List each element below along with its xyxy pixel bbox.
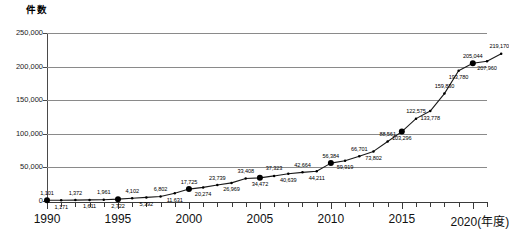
data-point-label: 1,101 <box>40 190 54 196</box>
data-point-label: 207,960 <box>477 65 497 71</box>
data-point-label: 44,211 <box>309 175 325 181</box>
milestone-marker <box>44 197 50 203</box>
data-marker <box>74 199 77 202</box>
data-point-label: 1,372 <box>69 190 83 196</box>
data-point-label: 6,802 <box>154 186 168 192</box>
milestone-marker <box>399 129 405 135</box>
data-point-label: 103,296 <box>392 135 412 141</box>
data-marker <box>372 150 375 153</box>
data-marker <box>287 172 290 175</box>
series-line <box>47 54 501 201</box>
data-marker <box>358 155 361 158</box>
data-point-label: 5,392 <box>140 201 154 207</box>
data-marker <box>457 70 460 73</box>
data-marker <box>429 110 432 113</box>
milestone-marker <box>470 60 476 66</box>
data-point-label: 193,780 <box>449 74 469 80</box>
data-point-label: 17,725 <box>181 179 198 185</box>
data-point-label: 37,323 <box>266 165 283 171</box>
milestone-marker <box>257 175 263 181</box>
data-marker <box>344 159 347 162</box>
data-point-label: 159,830 <box>435 83 455 89</box>
data-marker <box>159 195 162 198</box>
data-marker <box>216 184 219 187</box>
data-marker <box>103 198 106 201</box>
data-point-label: 42,664 <box>294 162 311 168</box>
data-point-label: 2,722 <box>111 203 125 209</box>
data-point-label: 26,969 <box>223 186 240 192</box>
data-point-label: 4,102 <box>125 188 139 194</box>
milestone-marker <box>328 160 334 166</box>
data-marker <box>486 60 489 63</box>
data-point-label: 66,701 <box>351 146 368 152</box>
data-point-label: 20,274 <box>195 191 212 197</box>
data-point-label: 1,611 <box>83 203 96 209</box>
data-point-label: 23,739 <box>209 175 226 181</box>
data-point-label: 34,472 <box>252 181 269 187</box>
data-point-label: 1,171 <box>54 204 68 210</box>
data-marker <box>500 52 503 55</box>
data-marker <box>315 170 318 173</box>
data-marker <box>131 197 134 200</box>
data-marker <box>273 175 276 178</box>
data-point-label: 133,778 <box>420 115 440 121</box>
data-point-label: 59,919 <box>337 164 354 170</box>
data-marker <box>443 92 446 95</box>
data-marker <box>301 171 304 174</box>
milestone-marker <box>115 196 121 202</box>
data-point-label: 1,961 <box>97 189 111 195</box>
data-marker <box>173 192 176 195</box>
data-point-label: 73,802 <box>365 155 382 161</box>
milestone-marker <box>186 186 192 192</box>
data-marker <box>202 186 205 189</box>
data-point-label: 122,575 <box>406 108 426 114</box>
data-point-label: 205,044 <box>463 53 483 59</box>
data-point-label: 219,170 <box>489 43 509 49</box>
data-marker <box>88 199 91 202</box>
data-marker <box>415 117 418 120</box>
data-marker <box>244 177 247 180</box>
data-marker <box>230 182 233 185</box>
data-point-label: 56,384 <box>323 153 340 159</box>
data-marker <box>145 196 148 199</box>
series-markers <box>44 52 502 203</box>
data-point-label: 11,631 <box>167 197 183 203</box>
data-marker <box>386 140 389 143</box>
data-marker <box>60 199 63 202</box>
data-point-label: 40,639 <box>280 177 297 183</box>
data-point-label: 33,408 <box>237 168 254 174</box>
